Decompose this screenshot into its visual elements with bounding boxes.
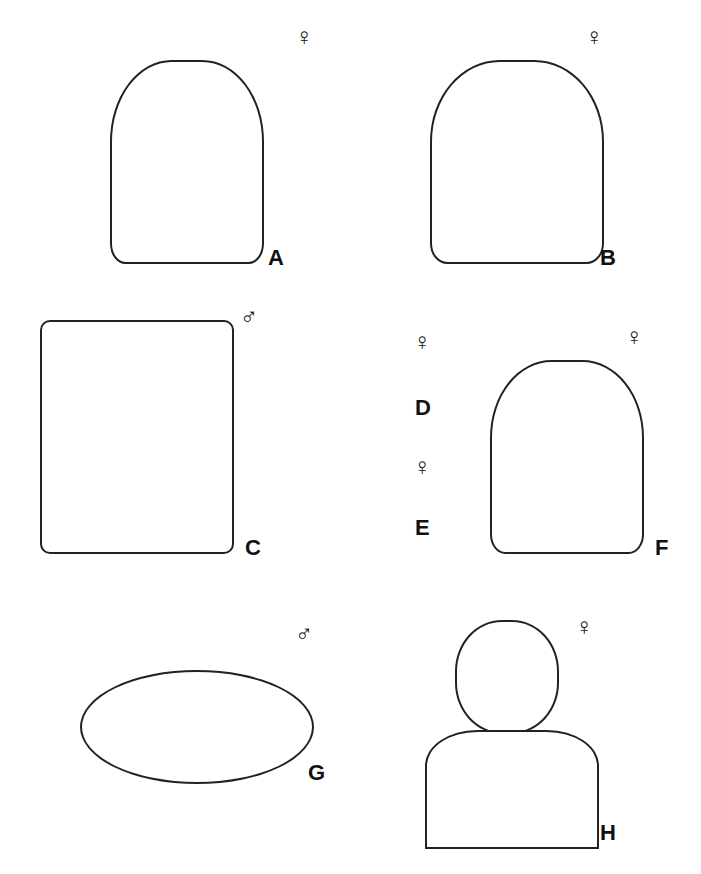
panel-label: F	[655, 535, 668, 561]
panel-label: C	[245, 535, 261, 561]
figure-outline	[455, 620, 559, 734]
panel-e: E ♀	[295, 450, 445, 560]
panel-d: D ♀	[295, 325, 445, 435]
female-symbol-icon: ♀	[575, 615, 593, 639]
panel-a: A ♀	[70, 20, 290, 270]
panel-f: F ♀	[470, 320, 680, 560]
panel-label: D	[415, 395, 431, 421]
figure-outline	[40, 320, 234, 554]
panel-g: G ♂	[60, 620, 350, 800]
figure-outline	[430, 60, 604, 264]
panel-label: A	[268, 245, 284, 271]
figure-outline	[425, 730, 599, 849]
female-symbol-icon: ♀	[625, 325, 643, 349]
panel-label: B	[600, 245, 616, 271]
panel-label: E	[415, 515, 430, 541]
female-symbol-icon: ♀	[413, 330, 431, 354]
female-symbol-icon: ♀	[413, 455, 431, 479]
panel-label: H	[600, 820, 616, 846]
figure-outline	[490, 360, 644, 554]
panel-h: H ♀	[415, 610, 675, 850]
female-symbol-icon: ♀	[585, 25, 603, 49]
panel-c: C ♂	[30, 300, 270, 560]
male-symbol-icon: ♂	[295, 622, 313, 646]
female-symbol-icon: ♀	[295, 25, 313, 49]
male-symbol-icon: ♂	[240, 305, 258, 329]
panel-b: B ♀	[420, 20, 640, 270]
panel-label: G	[308, 760, 325, 786]
figure-outline	[80, 670, 314, 784]
figure-outline	[110, 60, 264, 264]
